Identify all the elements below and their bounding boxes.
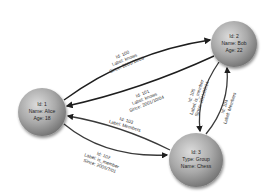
node-bob[interactable]: Id: 2 Name: Bob Age: 22 — [211, 21, 257, 67]
edge-label-104: Id: 104 Label: Members — [217, 89, 237, 124]
edge-label-100: Id: 100 Label: knows Since: 2001/10/03 — [104, 45, 145, 74]
svg-text:Type: Group: Type: Group — [182, 156, 210, 162]
svg-text:Id: 1: Id: 1 — [37, 101, 47, 107]
svg-text:Age: 22: Age: 22 — [225, 47, 242, 53]
node-chess[interactable]: Id: 3 Type: Group Name: Chess — [169, 133, 223, 187]
graph-diagram: Id: 100 Label: knows Since: 2001/10/03 I… — [0, 0, 271, 196]
edge-label-102: Id: 102 Label: is_member Since: 2005/7/0… — [82, 147, 122, 175]
svg-text:Id: 3: Id: 3 — [191, 149, 201, 155]
edge-102[interactable] — [64, 124, 167, 155]
svg-text:Name: Chess: Name: Chess — [181, 163, 212, 169]
svg-text:Name: Alice: Name: Alice — [29, 108, 56, 114]
svg-text:Id: 2: Id: 2 — [229, 33, 239, 39]
node-alice[interactable]: Id: 1 Name: Alice Age: 18 — [18, 88, 66, 136]
edge-label-103: Id: 103 Label: Members — [108, 114, 143, 133]
edge-label-105: Id: 105 Label: is_member Since: 2011/02/… — [184, 77, 211, 117]
svg-text:Name: Bob: Name: Bob — [221, 40, 246, 46]
edge-100[interactable] — [64, 40, 210, 100]
svg-text:Age: 18: Age: 18 — [33, 115, 50, 121]
